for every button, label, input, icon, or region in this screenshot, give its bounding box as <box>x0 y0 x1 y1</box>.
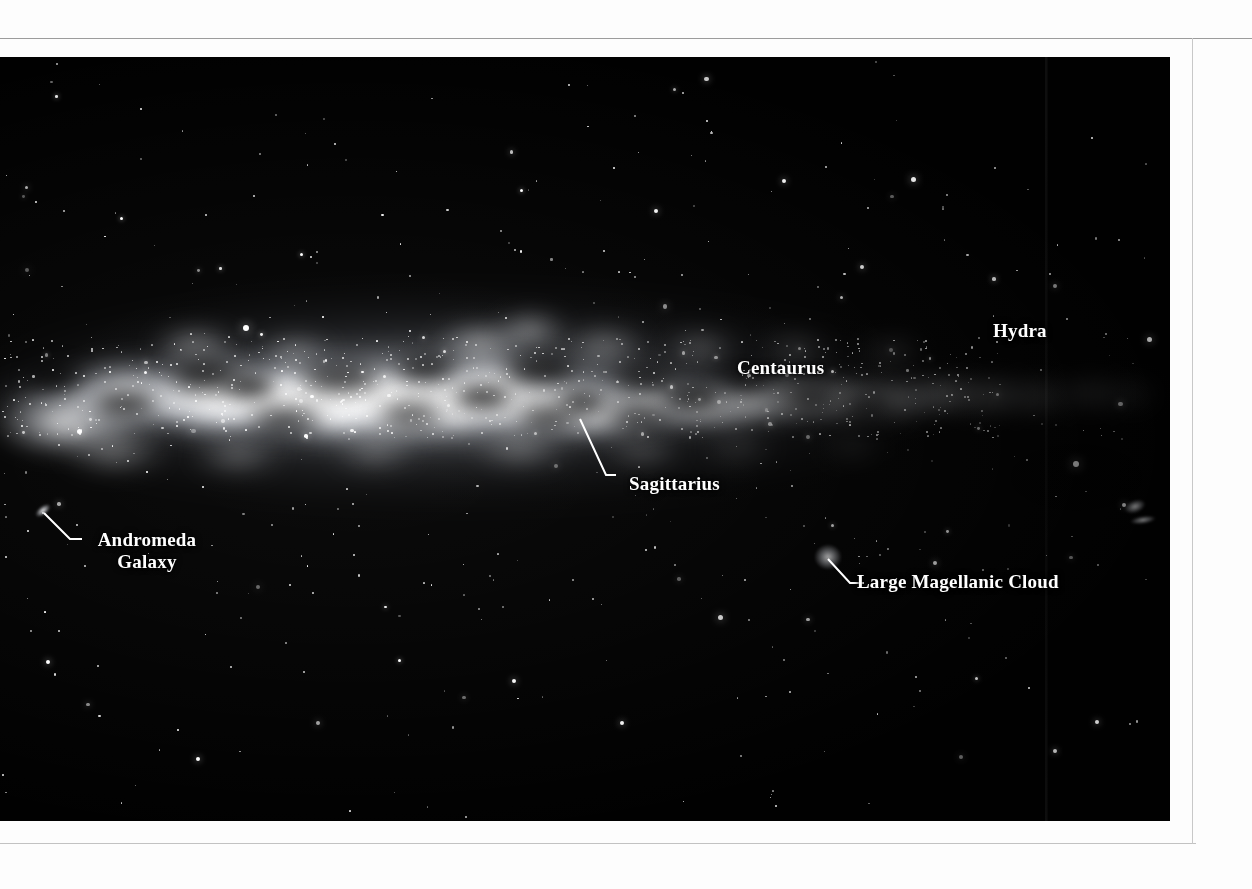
star <box>112 445 113 446</box>
star <box>215 394 217 396</box>
page-edge-line-right <box>1192 38 1193 844</box>
star <box>182 130 183 131</box>
star <box>798 347 801 350</box>
star <box>697 431 699 433</box>
star <box>217 387 218 388</box>
star <box>939 367 941 369</box>
star <box>439 293 440 294</box>
star <box>915 398 916 399</box>
star <box>1118 402 1122 406</box>
star <box>442 431 443 432</box>
star <box>316 721 320 725</box>
star <box>118 345 119 346</box>
star <box>774 341 776 343</box>
star <box>922 360 924 362</box>
star <box>390 358 392 360</box>
star <box>41 402 43 404</box>
star <box>390 425 392 427</box>
star <box>45 404 47 406</box>
star <box>566 382 568 384</box>
star <box>464 413 465 414</box>
star <box>203 349 205 351</box>
star <box>568 84 570 86</box>
star <box>298 420 299 421</box>
star <box>485 417 487 419</box>
star <box>444 389 446 391</box>
star <box>316 353 317 354</box>
star <box>807 398 808 399</box>
star <box>359 396 361 398</box>
star <box>361 388 362 389</box>
star <box>978 337 980 339</box>
star <box>148 367 149 368</box>
star <box>1085 491 1086 492</box>
star <box>77 384 79 386</box>
star <box>10 432 11 433</box>
star <box>556 409 557 410</box>
star <box>681 428 683 430</box>
star <box>675 368 676 369</box>
star <box>706 120 708 122</box>
star <box>280 384 282 386</box>
star <box>29 275 31 277</box>
star <box>846 380 848 382</box>
star <box>219 267 222 270</box>
star <box>801 418 803 420</box>
star <box>481 432 483 434</box>
label-centaurus: Centaurus <box>737 357 824 379</box>
star <box>999 384 1000 385</box>
star <box>792 436 794 438</box>
star <box>269 359 270 360</box>
star <box>647 436 648 437</box>
star <box>830 400 832 402</box>
star <box>173 402 175 404</box>
star <box>52 411 53 412</box>
star <box>886 651 889 654</box>
star <box>596 472 597 473</box>
star <box>422 364 424 366</box>
star <box>30 630 32 632</box>
star <box>983 430 985 432</box>
star <box>874 179 875 180</box>
star <box>109 371 111 373</box>
star <box>424 353 426 355</box>
star <box>708 241 709 242</box>
star <box>463 564 464 565</box>
small-magellanic-cloud-smudge <box>1122 497 1147 517</box>
star <box>653 372 655 374</box>
star <box>926 346 928 348</box>
star <box>745 384 747 386</box>
star <box>18 401 19 402</box>
star <box>298 404 299 405</box>
star <box>438 355 440 357</box>
star <box>287 351 288 352</box>
star-cloud <box>660 329 740 367</box>
star <box>365 399 367 401</box>
star <box>613 167 615 169</box>
star <box>312 420 313 421</box>
star <box>994 427 996 429</box>
star <box>418 418 420 420</box>
star <box>464 382 465 383</box>
star <box>551 429 552 430</box>
star <box>146 471 148 473</box>
galactic-plane-core <box>10 367 770 429</box>
star <box>453 359 454 360</box>
star <box>82 410 83 411</box>
star <box>917 340 918 341</box>
star <box>302 410 303 411</box>
star <box>116 462 117 463</box>
star <box>593 302 595 304</box>
star <box>354 431 356 433</box>
star <box>507 349 509 351</box>
star <box>183 419 185 421</box>
star <box>473 357 475 359</box>
star <box>64 398 66 400</box>
star <box>827 347 829 349</box>
star <box>933 406 934 407</box>
star <box>10 354 11 355</box>
star <box>599 394 600 395</box>
star <box>783 659 784 660</box>
star <box>929 357 932 360</box>
star <box>244 329 245 330</box>
